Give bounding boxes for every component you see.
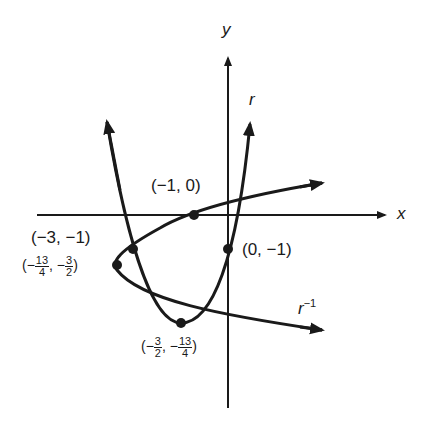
curve-r-left-arm-arrow <box>107 122 120 190</box>
curve-r-label: r <box>249 90 255 110</box>
point-label-neg13over4-neg3over2: (−134, −32) <box>22 255 78 278</box>
graph-canvas <box>0 0 429 424</box>
point-label-neg1-0: (−1, 0) <box>151 176 201 196</box>
point-0-neg1 <box>223 244 233 254</box>
x-axis-label: x <box>397 204 406 224</box>
point-label-neg3over2-neg13over4: (−32, −134) <box>141 336 197 359</box>
curve-r-inverse-lower-arrow <box>300 327 322 330</box>
y-axis-label: y <box>222 20 231 40</box>
curve-r-inverse-upper-arrow <box>300 183 322 187</box>
point-neg3-neg1 <box>128 244 138 254</box>
point-label-0-neg1: (0, −1) <box>242 240 292 260</box>
point-neg13over4-neg3over2 <box>112 260 122 270</box>
point-neg3over2-neg13over4 <box>176 318 186 328</box>
point-neg1-0 <box>189 210 199 220</box>
point-label-neg3-neg1: (−3, −1) <box>31 228 91 248</box>
curve-r-inverse-label: r−1 <box>298 297 316 319</box>
